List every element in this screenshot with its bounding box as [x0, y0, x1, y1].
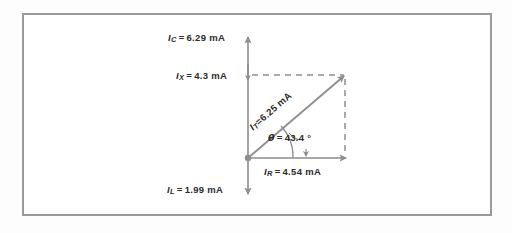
label-ic-value: 6.29 — [187, 32, 207, 43]
label-theta: θ=43.4 ° — [268, 132, 311, 143]
label-ic-subscript: C — [171, 35, 177, 44]
label-ix: IX=4.3 mA — [176, 70, 227, 82]
theta-symbol: θ — [268, 132, 275, 143]
label-il-equals: = — [175, 184, 185, 195]
label-ic-equals: = — [177, 32, 187, 43]
label-ix-equals: = — [184, 70, 194, 81]
label-ix-unit: mA — [211, 70, 227, 81]
origin-point — [245, 155, 251, 161]
label-ir: IR=4.54 mA — [264, 166, 321, 178]
label-il: IL=1.99 mA — [167, 184, 223, 196]
label-ic: IC=6.29 mA — [168, 32, 225, 44]
label-il-unit: mA — [207, 184, 223, 195]
label-ir-subscript: R — [267, 169, 273, 178]
label-ir-equals: = — [273, 166, 283, 177]
label-ic-unit: mA — [209, 32, 225, 43]
label-theta-equals: = — [275, 132, 285, 143]
label-ix-value: 4.3 — [194, 70, 208, 81]
label-theta-unit: ° — [307, 132, 311, 143]
phasor-figure: IC=6.29 mA IX=4.3 mA IT=6.25 mA θ=43.4 °… — [0, 0, 512, 233]
label-ir-value: 4.54 — [283, 166, 303, 177]
label-il-value: 1.99 — [185, 184, 205, 195]
label-theta-value: 43.4 — [285, 132, 305, 143]
label-ir-unit: mA — [305, 166, 321, 177]
